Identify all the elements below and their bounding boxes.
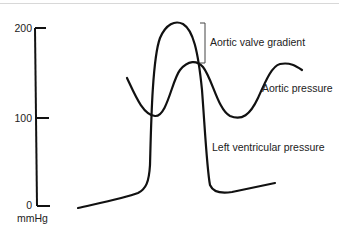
aortic-valve-gradient-label: Aortic valve gradient <box>210 36 305 48</box>
tick-label-200: 200 <box>4 22 32 34</box>
tick-label-100: 100 <box>4 112 32 124</box>
aortic-pressure-label: Aortic pressure <box>262 82 333 94</box>
y-axis-unit-label: mmHg <box>17 212 48 224</box>
tick-label-0: 0 <box>4 199 32 211</box>
left-ventricular-pressure-label: Left ventricular pressure <box>212 141 325 153</box>
y-axis <box>35 28 50 206</box>
aortic-valve-gradient-bracket <box>200 23 205 63</box>
